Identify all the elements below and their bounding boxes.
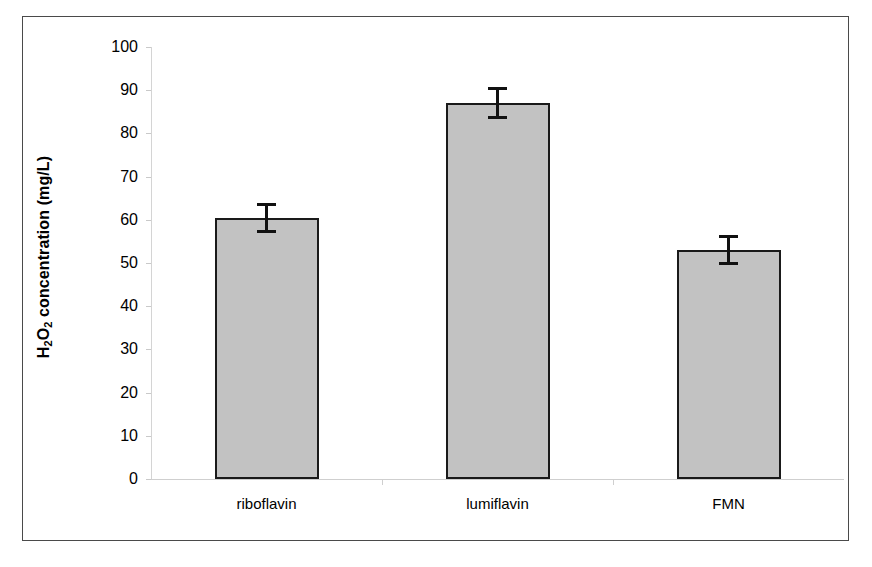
y-tick-mark xyxy=(146,47,151,48)
y-tick-mark xyxy=(146,306,151,307)
x-tick-mark xyxy=(382,480,383,485)
bar xyxy=(677,250,781,479)
x-category-label: FMN xyxy=(639,495,819,512)
error-bar xyxy=(717,235,741,265)
y-axis-line xyxy=(151,47,152,480)
y-tick-mark xyxy=(146,90,151,91)
y-tick-mark xyxy=(146,263,151,264)
error-bar-cap-bottom xyxy=(257,230,276,233)
error-bar-cap-bottom xyxy=(719,262,738,265)
y-tick-mark xyxy=(146,349,151,350)
x-tick-mark xyxy=(613,480,614,485)
error-bar-cap-bottom xyxy=(488,116,507,119)
error-bar xyxy=(255,203,279,233)
error-bar xyxy=(486,87,510,119)
error-bar-cap-top xyxy=(488,87,507,90)
x-category-label: riboflavin xyxy=(177,495,357,512)
error-bar-stem xyxy=(496,87,499,119)
x-axis-line xyxy=(151,479,844,480)
y-tick-mark xyxy=(146,220,151,221)
error-bar-stem xyxy=(727,235,730,265)
error-bar-cap-top xyxy=(257,203,276,206)
y-tick-mark xyxy=(146,479,151,480)
bar xyxy=(446,103,550,479)
y-tick-mark xyxy=(146,177,151,178)
chart-plot-area: H2O2 concentration (mg/L) 01020304050607… xyxy=(0,0,872,567)
error-bar-cap-top xyxy=(719,235,738,238)
x-category-label: lumiflavin xyxy=(408,495,588,512)
y-tick-mark xyxy=(146,133,151,134)
y-tick-mark xyxy=(146,436,151,437)
bar xyxy=(215,218,319,479)
y-tick-mark xyxy=(146,393,151,394)
error-bar-stem xyxy=(265,203,268,233)
